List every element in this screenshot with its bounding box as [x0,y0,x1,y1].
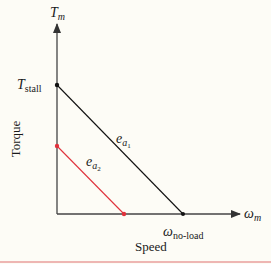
ea2-start-point [55,144,59,148]
stall-label: Tstall [17,77,42,94]
x-axis-label: Speed [135,239,167,254]
stall-point [55,83,59,87]
ea2-label: ea2 [86,154,101,173]
torque-speed-diagram: Tm Tstall Torque ea1 ea2 ωm ωno-load Spe… [0,0,271,264]
y-axis-label: Torque [8,120,23,157]
y-axis-symbol: Tm [50,5,65,22]
x-axis-symbol: ωm [244,206,261,223]
no-load-point [181,212,185,216]
ea2-end-point [122,212,126,216]
no-load-label: ωno-load [163,224,203,241]
curve-ea1 [57,85,183,214]
